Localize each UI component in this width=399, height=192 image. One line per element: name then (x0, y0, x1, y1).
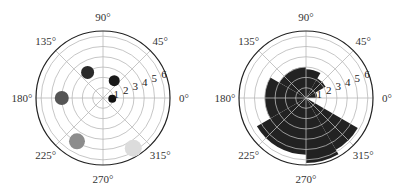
angle-tick-label: 45° (153, 35, 168, 47)
radial-tick-label: 2 (326, 84, 332, 96)
radial-tick-label: 4 (345, 76, 351, 88)
data-point (109, 75, 120, 86)
angle-tick-label: 270° (93, 173, 114, 185)
angle-tick-label: 90° (298, 11, 313, 23)
radial-tick-label: 3 (133, 80, 139, 92)
angle-tick-label: 270° (296, 173, 317, 185)
radial-tick-label: 6 (364, 68, 370, 80)
angle-tick-label: 315° (150, 149, 171, 161)
angle-tick-label: 135° (35, 35, 56, 47)
data-point (69, 133, 85, 149)
angle-tick-label: 45° (356, 35, 371, 47)
angle-tick-label: 90° (95, 11, 110, 23)
radial-tick-label: 3 (336, 80, 342, 92)
angle-tick-label: 315° (353, 149, 374, 161)
radial-tick-label: 5 (355, 72, 361, 84)
angle-tick-label: 225° (35, 149, 56, 161)
radial-tick-label: 5 (152, 72, 158, 84)
data-point (125, 140, 142, 157)
radial-tick-label: 6 (161, 68, 167, 80)
radial-tick-label: 1 (114, 88, 120, 100)
radial-tick-label: 1 (317, 88, 323, 100)
angle-tick-label: 135° (238, 35, 259, 47)
polar-scatter-plot: 1234560°45°90°135°180°225°270°315° (12, 11, 189, 185)
data-point (55, 91, 69, 105)
angle-tick-label: 0° (179, 92, 189, 104)
radial-tick-label: 2 (123, 84, 129, 96)
angle-tick-label: 0° (382, 92, 392, 104)
data-point (81, 66, 94, 79)
angle-tick-label: 180° (12, 92, 33, 104)
polar-charts: 1234560°45°90°135°180°225°270°315°123456… (0, 0, 399, 192)
polar-bar-plot: 1234560°45°90°135°180°225°270°315° (215, 11, 392, 185)
angle-tick-label: 180° (215, 92, 236, 104)
angle-tick-label: 225° (238, 149, 259, 161)
radial-tick-label: 4 (142, 76, 148, 88)
